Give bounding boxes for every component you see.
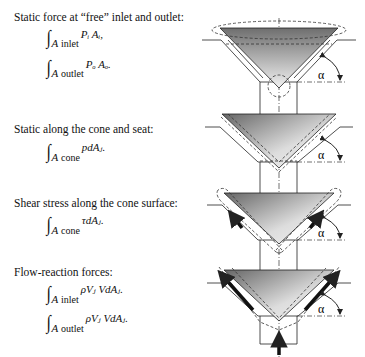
angle-arc-1 <box>325 57 340 80</box>
alpha-label-3: α <box>318 226 325 240</box>
panel-cone-seat-static: α <box>205 114 353 172</box>
angle-arc-4 <box>325 295 340 314</box>
alpha-label-2: α <box>318 148 325 162</box>
equation-inlet-pressure: ∫ A inlet Pᵢ Aᵢ, <box>46 28 103 46</box>
panel-free-inlet-outlet: α <box>202 21 356 97</box>
shear-arrow-left <box>232 215 242 228</box>
equation-outlet-pressure: ∫ A outlet Pₒ Aₒ. <box>46 58 111 76</box>
angle-arc-2 <box>325 140 340 160</box>
section-label-flow-reaction: Flow-reaction forces: <box>14 266 113 278</box>
alpha-label-1: α <box>318 68 325 82</box>
panel-flow-reaction: α <box>207 267 351 355</box>
equation-outlet-flow-reaction: ∫ A outlet ρVⱼ VdAⱼ. <box>46 313 128 331</box>
equation-inlet-flow-reaction: ∫ A inlet ρVⱼ VdAⱼ. <box>46 284 123 302</box>
alpha-label-4: α <box>318 302 325 316</box>
poppet-valve-force-diagram: α α α <box>190 0 365 357</box>
panel-cone-shear: α <box>207 188 351 253</box>
section-label-static-cone: Static along the cone and seat: <box>14 123 154 135</box>
angle-arc-3 <box>325 218 340 238</box>
equation-cone-shear: ∫ A cone τdAⱼ. <box>46 215 104 233</box>
equation-cone-pressure: ∫ A cone pdAⱼ. <box>46 142 105 160</box>
section-label-static-free: Static force at “free” inlet and outlet: <box>14 11 184 23</box>
section-label-shear-stress: Shear stress along the cone surface: <box>14 197 178 209</box>
